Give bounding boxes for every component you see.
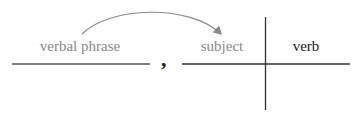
modifier-arrow [82,12,221,34]
verbal-phrase-label: verbal phrase [40,38,120,55]
verb-label: verb [293,38,320,55]
subject-label: subject [201,38,244,55]
sentence-diagram: verbal phrase , subject verb [0,0,358,114]
comma-separator: , [161,46,167,72]
diagram-lines [0,0,358,114]
